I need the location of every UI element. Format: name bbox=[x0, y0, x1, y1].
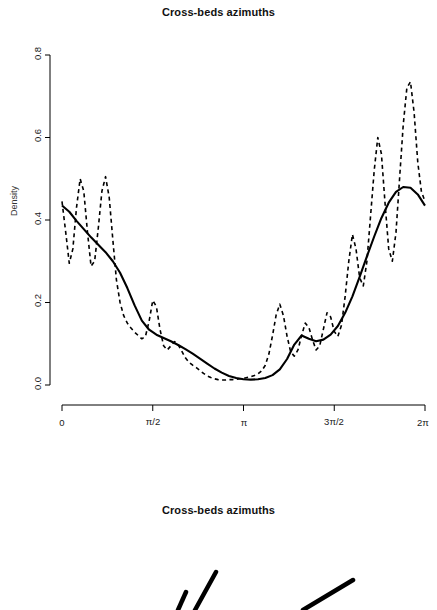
rose-spokes bbox=[178, 572, 353, 610]
plot-axes bbox=[45, 55, 425, 411]
secondary-page-title: Cross-beds azimuths bbox=[0, 504, 437, 516]
series-smooth-density bbox=[62, 187, 425, 380]
plot-series bbox=[62, 82, 425, 380]
rose-spoke bbox=[195, 572, 216, 610]
figure-canvas: Cross-beds azimuths Density 0.8 0.6 0.4 … bbox=[0, 0, 437, 610]
density-plot-area bbox=[0, 0, 437, 470]
series-kernel-density-oscillating bbox=[62, 82, 425, 380]
rose-spoke bbox=[303, 580, 353, 610]
rose-spoke bbox=[178, 592, 186, 610]
